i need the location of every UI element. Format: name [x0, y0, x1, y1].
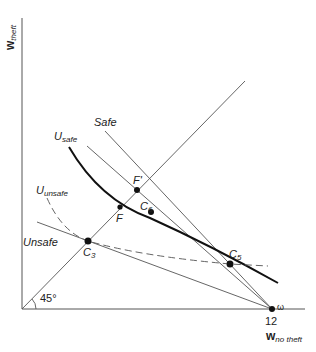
y-axis-label: wtheft — [3, 24, 18, 51]
point-endowment — [269, 306, 275, 312]
f-prime-label: F' — [133, 174, 143, 186]
c3-label: C3 — [83, 246, 96, 260]
u-unsafe-label: Uunsafe — [36, 184, 69, 198]
fair-odds-line — [87, 146, 272, 309]
point-c5 — [227, 261, 234, 268]
u-safe-curve — [69, 147, 278, 283]
indifference-diagram: wtheft wno theft 12 ω 45° Safe Unsafe Us… — [0, 0, 316, 352]
point-f — [117, 204, 122, 209]
safe-budget-line — [105, 131, 272, 309]
angle-arc — [32, 299, 36, 309]
c5-label: C5 — [229, 248, 242, 262]
safe-label: Safe — [94, 116, 117, 128]
x-axis-label: wno theft — [265, 329, 303, 344]
unsafe-budget-line — [37, 222, 272, 309]
endowment-label: ω — [277, 302, 284, 312]
f-label: F — [116, 212, 124, 224]
angle-label: 45° — [40, 292, 57, 304]
point-c3 — [85, 238, 92, 245]
x-tick-12: 12 — [265, 315, 277, 327]
u-safe-label: Usafe — [54, 130, 78, 144]
point-f-prime — [134, 187, 140, 193]
unsafe-label: Unsafe — [23, 236, 58, 248]
